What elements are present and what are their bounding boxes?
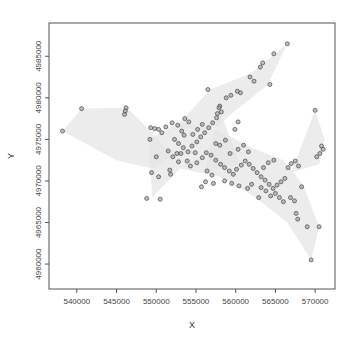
data-point — [170, 121, 174, 125]
data-point — [277, 196, 281, 200]
x-tick-label: 545000 — [103, 297, 130, 306]
y-tick-label: 4970000 — [34, 165, 43, 197]
x-tick-label: 555000 — [183, 297, 210, 306]
data-point — [176, 123, 180, 127]
data-point — [211, 121, 215, 125]
data-point — [185, 159, 189, 163]
data-point — [219, 110, 223, 114]
y-axis: 4960000496500049700004975000498000049850… — [34, 40, 49, 280]
data-point — [182, 133, 186, 137]
hull-polygon — [148, 123, 319, 260]
data-point — [230, 181, 234, 185]
data-point — [236, 147, 240, 151]
data-point — [243, 159, 247, 163]
data-point — [218, 143, 222, 147]
data-point — [186, 150, 190, 154]
data-point — [286, 166, 290, 170]
data-point — [235, 167, 239, 171]
data-point — [228, 152, 232, 156]
data-point — [211, 181, 215, 185]
data-point — [177, 142, 181, 146]
data-point — [199, 135, 203, 139]
data-point — [258, 65, 262, 69]
data-point — [318, 152, 322, 156]
data-point — [293, 199, 297, 203]
data-point — [313, 108, 317, 112]
x-axis: 5400005450005500005550005600005650005700… — [63, 289, 329, 306]
data-point — [315, 155, 319, 159]
x-tick-label: 570000 — [302, 297, 329, 306]
data-point — [179, 152, 183, 156]
data-point — [289, 162, 293, 166]
data-point — [239, 163, 243, 167]
x-tick-label: 550000 — [143, 297, 170, 306]
data-point — [200, 122, 204, 126]
data-point — [242, 143, 246, 147]
data-point — [227, 169, 231, 173]
x-tick-label: 540000 — [63, 297, 90, 306]
data-point — [123, 112, 127, 116]
data-point — [219, 162, 223, 166]
data-point — [205, 169, 209, 173]
data-point — [309, 258, 313, 262]
x-axis-label: X — [189, 320, 195, 330]
data-point — [262, 166, 266, 170]
y-tick-label: 4975000 — [34, 123, 43, 155]
data-point — [210, 173, 214, 177]
data-point — [150, 171, 154, 175]
data-point — [188, 164, 192, 168]
data-point — [166, 149, 170, 153]
data-point — [261, 61, 265, 65]
data-point — [252, 79, 256, 83]
data-point — [269, 194, 273, 198]
data-point — [229, 93, 233, 97]
data-point — [266, 161, 270, 165]
data-point — [236, 120, 240, 124]
data-point — [271, 186, 275, 190]
data-point — [231, 172, 235, 176]
hull-polygon — [291, 110, 324, 172]
data-point — [203, 131, 207, 135]
data-point — [169, 172, 173, 176]
data-point — [190, 144, 194, 148]
data-point — [272, 52, 276, 56]
data-point — [279, 180, 283, 184]
data-point — [223, 138, 227, 142]
data-point — [264, 189, 268, 193]
data-point — [250, 182, 254, 186]
data-point — [247, 162, 251, 166]
data-point — [300, 185, 304, 189]
data-point — [195, 140, 199, 144]
data-point — [148, 137, 152, 141]
data-point — [259, 175, 263, 179]
data-point — [257, 196, 261, 200]
data-point — [154, 155, 158, 159]
data-point — [177, 160, 181, 164]
data-point — [153, 127, 157, 131]
hull-polygon — [176, 44, 287, 131]
data-point — [321, 147, 325, 151]
data-point — [183, 117, 187, 121]
data-point — [215, 116, 219, 120]
data-point — [145, 196, 149, 200]
data-point — [204, 151, 208, 155]
data-point — [224, 96, 228, 100]
data-point — [217, 106, 221, 110]
data-point — [237, 184, 241, 188]
data-point — [187, 120, 191, 124]
data-point — [157, 127, 161, 131]
data-point — [246, 150, 250, 154]
data-point — [293, 159, 297, 163]
data-point — [263, 178, 267, 182]
data-point — [273, 191, 277, 195]
data-point — [193, 151, 197, 155]
data-point — [207, 126, 211, 130]
data-point — [61, 129, 65, 133]
x-tick-label: 560000 — [222, 297, 249, 306]
data-point — [191, 132, 195, 136]
data-point — [80, 107, 84, 111]
data-point — [272, 158, 276, 162]
x-tick-label: 565000 — [262, 297, 289, 306]
data-point — [251, 167, 255, 171]
data-point — [195, 161, 199, 165]
